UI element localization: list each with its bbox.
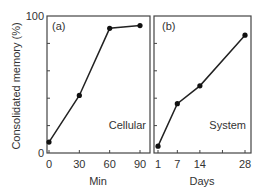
y-tick-100: 100 [26, 10, 44, 22]
data-point [197, 83, 202, 88]
data-point [77, 93, 82, 98]
x-tick-label: 7 [174, 158, 180, 170]
panel-a-ticks [47, 43, 140, 153]
x-tick-label: 14 [194, 158, 206, 170]
panel-a-x-ticks: 0306090 [46, 158, 146, 170]
y-tick-0: 0 [38, 147, 44, 159]
data-point [175, 101, 180, 106]
figure: Consolidated memory (%) 100 0 (a) Cellul… [0, 0, 264, 194]
panel-b-points [155, 33, 247, 149]
data-point [155, 144, 160, 149]
panel-a-label: (a) [52, 20, 65, 32]
y-axis-label: Consolidated memory (%) [10, 22, 22, 149]
panel-b-annotation: System [209, 119, 246, 131]
panel-a: (a) Cellular 0306090 Min [46, 16, 150, 187]
data-point [242, 33, 247, 38]
panel-b: (b) System 171428 Days [154, 16, 251, 187]
data-point [46, 139, 51, 144]
x-tick-label: 28 [239, 158, 251, 170]
panel-b-label: (b) [162, 20, 175, 32]
x-tick-label: 60 [104, 158, 116, 170]
x-tick-label: 1 [155, 158, 161, 170]
panel-b-x-label: Days [189, 175, 215, 187]
data-point [137, 23, 142, 28]
x-tick-label: 90 [134, 158, 146, 170]
data-point [107, 26, 112, 31]
panel-a-x-label: Min [89, 175, 107, 187]
x-tick-label: 30 [73, 158, 85, 170]
panel-a-annotation: Cellular [109, 119, 147, 131]
x-tick-label: 0 [46, 158, 52, 170]
panel-b-ticks [154, 43, 245, 153]
panel-b-x-ticks: 171428 [155, 158, 251, 170]
